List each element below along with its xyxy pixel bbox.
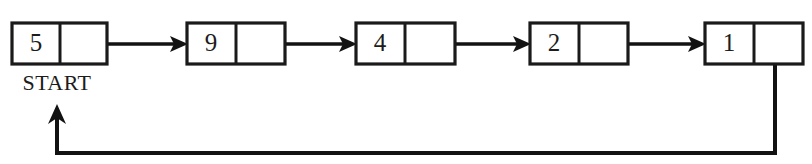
- list-node-5[interactable]: 1: [705, 23, 803, 64]
- node-value-5: 1: [723, 29, 736, 56]
- list-node-3[interactable]: 4: [356, 23, 455, 64]
- diagram-canvas: 5 9 4 2 1 START: [0, 0, 812, 164]
- node-value-3: 4: [374, 29, 387, 56]
- list-node-4[interactable]: 2: [530, 23, 628, 64]
- node-value-2: 9: [205, 29, 218, 56]
- node-value-1: 5: [30, 29, 43, 56]
- linked-list-diagram: 5 9 4 2 1 START: [0, 0, 812, 164]
- list-node-1[interactable]: 5: [12, 23, 107, 64]
- start-label: START: [22, 70, 91, 95]
- list-node-2[interactable]: 9: [187, 23, 285, 64]
- node-value-4: 2: [548, 29, 561, 56]
